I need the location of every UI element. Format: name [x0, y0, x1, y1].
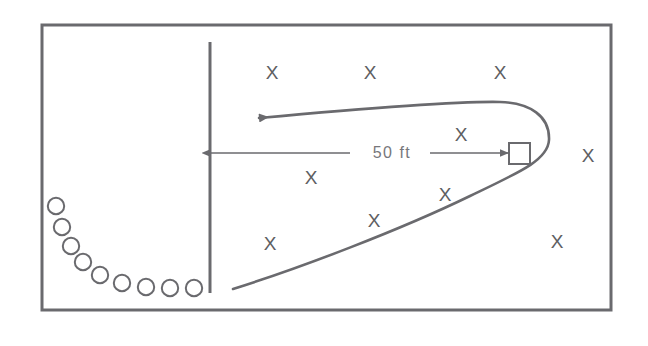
defender-x-icon: X [582, 145, 595, 166]
defender-x-icon: X [551, 231, 564, 252]
defender-x-icon: X [266, 62, 279, 83]
offensive-line-group [48, 198, 202, 296]
offensive-lineman-circle [48, 198, 64, 214]
pass-route-path [233, 102, 549, 289]
offensive-lineman-circle [92, 267, 108, 283]
receiver-marker [509, 143, 530, 164]
defender-x-icon: X [305, 167, 318, 188]
defender-x-icon: X [494, 62, 507, 83]
offensive-lineman-circle [138, 279, 154, 295]
offensive-lineman-circle [63, 238, 79, 254]
football-route-diagram: XXXXXXXXXX 50 ft [0, 0, 648, 346]
offensive-lineman-circle [75, 254, 91, 270]
offensive-lineman-circle [114, 275, 130, 291]
offensive-lineman-circle [54, 219, 70, 235]
defender-x-icon: X [264, 233, 277, 254]
defender-x-icon: X [439, 184, 452, 205]
defender-x-icon: X [364, 62, 377, 83]
dimension-label: 50 ft [373, 144, 412, 161]
defender-x-icon: X [368, 210, 381, 231]
defender-x-icon: X [455, 124, 468, 145]
offensive-lineman-circle [162, 280, 178, 296]
diagram-root: XXXXXXXXXX 50 ft [0, 0, 648, 346]
offensive-lineman-circle [186, 280, 202, 296]
defender-group: XXXXXXXXXX [264, 62, 595, 254]
